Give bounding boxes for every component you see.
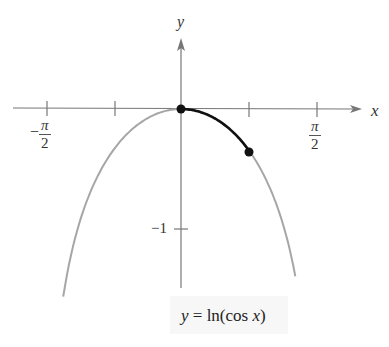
frac-den: 2 [309,136,321,152]
x-axis-label: x [371,102,379,119]
point-pi-over-4 [245,148,254,157]
function-caption: y = ln(cos x) [181,306,266,326]
caption-x: x [252,306,260,325]
neg-sign: − [30,124,39,140]
function-curve [63,109,295,297]
tick-label-pi-over-2: π 2 [309,119,321,152]
tick-label-neg-pi-over-2: π 2 [39,118,51,151]
point-origin [177,105,186,114]
y-axis-label: y [177,14,184,30]
caption-eq: = ln(cos [189,306,253,325]
graph-canvas [0,0,389,347]
caption-close: ) [260,306,266,325]
y-tick-label-neg1: −1 [151,221,167,236]
highlighted-arc [181,109,249,151]
frac-num: π [309,119,321,136]
caption-y: y [181,306,189,325]
frac-den: 2 [39,135,51,151]
frac-num: π [39,118,51,135]
